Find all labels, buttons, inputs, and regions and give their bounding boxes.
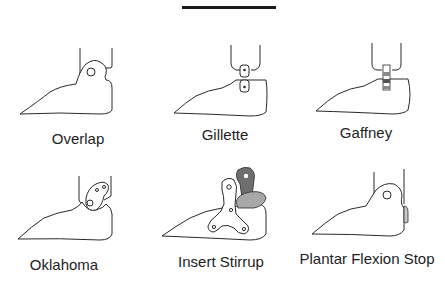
panel-oklahoma-drawing bbox=[18, 176, 112, 240]
panel-insert-stirrup-drawing bbox=[162, 167, 266, 240]
gaffney-upright-right bbox=[392, 43, 401, 70]
gaffney-hinge-band bbox=[383, 86, 390, 89]
gillette-rivet-icon bbox=[243, 86, 246, 89]
label-insert-stirrup: Insert Stirrup bbox=[178, 253, 264, 270]
gaffney-foot-shell bbox=[316, 79, 410, 114]
gaffney-upright-left bbox=[372, 43, 382, 70]
panel-plantar-flexion-stop-drawing bbox=[312, 169, 408, 236]
gaffney-hinge-band bbox=[383, 72, 390, 76]
pfs-foot-shell bbox=[312, 184, 404, 236]
pfs-stop-pad bbox=[404, 206, 408, 223]
gillette-upright-left bbox=[231, 45, 240, 70]
label-oklahoma: Oklahoma bbox=[30, 256, 98, 273]
gillette-rivet-icon bbox=[243, 69, 246, 72]
panel-gillette-drawing bbox=[174, 45, 267, 116]
gillette-foot-shell bbox=[174, 80, 267, 116]
oklahoma-upright-left bbox=[79, 176, 82, 204]
label-gillette: Gillette bbox=[202, 126, 249, 143]
panel-gaffney-drawing bbox=[316, 43, 410, 114]
label-gaffney: Gaffney bbox=[340, 124, 392, 141]
gaffney-hinge-band bbox=[383, 79, 390, 83]
label-overlap: Overlap bbox=[52, 130, 105, 147]
panel-overlap-drawing bbox=[20, 48, 112, 114]
label-plantar-flexion-stop: Plantar Flexion Stop bbox=[299, 250, 434, 267]
overlap-foot-shell bbox=[20, 60, 112, 114]
gillette-upright-right bbox=[251, 45, 260, 70]
insert-stirrup-pivot-icon bbox=[244, 174, 248, 178]
